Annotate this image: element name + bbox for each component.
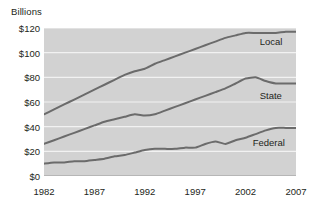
- plot-area: [44, 28, 296, 176]
- y-axis-unit-label: Billions: [11, 6, 42, 17]
- x-axis-tick-label: 1987: [84, 186, 105, 197]
- y-axis-tick-labels: $0$20$40$60$80$100$120: [0, 28, 40, 176]
- y-axis-tick-label: $120: [19, 23, 40, 34]
- line-chart: Billions $0$20$40$60$80$100$120 19821987…: [0, 0, 314, 209]
- y-axis-tick-label: $0: [29, 171, 40, 182]
- series-layer: [44, 28, 296, 176]
- y-axis-tick-label: $100: [19, 47, 40, 58]
- x-axis-tick-label: 2007: [285, 186, 306, 197]
- y-axis-tick-label: $40: [24, 121, 40, 132]
- x-axis-tick-label: 1992: [134, 186, 155, 197]
- series-label-local: Local: [260, 36, 283, 47]
- y-axis-tick-label: $20: [24, 146, 40, 157]
- series-label-federal: Federal: [253, 137, 285, 148]
- x-axis-tick-labels: 198219871992199720022007: [44, 186, 296, 202]
- series-label-state: State: [260, 90, 282, 101]
- x-axis-tick-label: 1982: [33, 186, 54, 197]
- y-axis-tick-label: $60: [24, 97, 40, 108]
- x-axis-tick-label: 2002: [235, 186, 256, 197]
- x-axis-tick-label: 1997: [185, 186, 206, 197]
- y-axis-tick-label: $80: [24, 72, 40, 83]
